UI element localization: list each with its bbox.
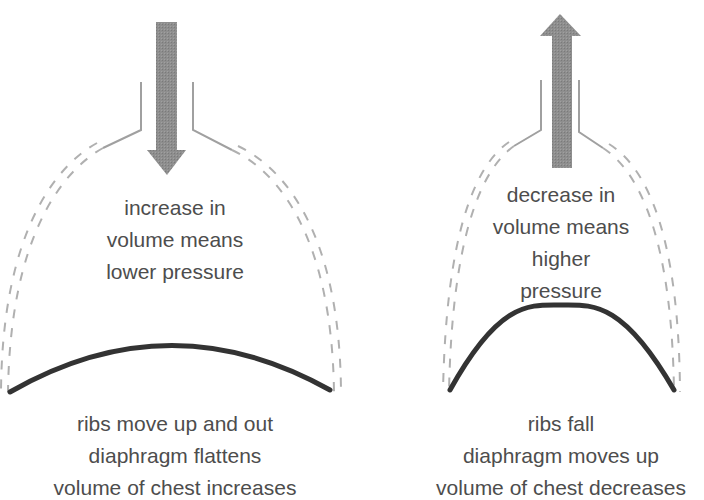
text-line: higher <box>493 243 630 275</box>
inhalation-caption: ribs move up and out diaphragm flattens … <box>54 408 297 500</box>
exhalation-pressure-note: decrease in volume means higher pressure <box>493 179 630 307</box>
exhalation-caption: ribs fall diaphragm moves up volume of c… <box>436 408 686 500</box>
caption-line: ribs move up and out <box>54 408 297 440</box>
diaphragm-flat <box>10 345 330 392</box>
diaphragm-domed <box>450 305 674 390</box>
trachea-right-wall <box>193 82 232 150</box>
text-line: increase in <box>106 192 244 224</box>
text-line: decrease in <box>493 179 630 211</box>
caption-line: ribs fall <box>436 408 686 440</box>
caption-line: volume of chest increases <box>54 472 297 500</box>
air-in-arrow-icon <box>147 22 186 175</box>
text-line: pressure <box>493 275 630 307</box>
air-out-arrow-icon <box>540 14 581 168</box>
text-line: volume means <box>493 211 630 243</box>
caption-line: diaphragm flattens <box>54 440 297 472</box>
trachea-left-wall <box>514 80 541 146</box>
caption-line: volume of chest decreases <box>436 472 686 500</box>
inhalation-pressure-note: increase in volume means lower pressure <box>106 192 244 288</box>
caption-line: diaphragm moves up <box>436 440 686 472</box>
trachea-left-wall <box>103 82 141 148</box>
text-line: volume means <box>106 224 244 256</box>
trachea-right-wall <box>579 80 603 148</box>
text-line: lower pressure <box>106 256 244 288</box>
